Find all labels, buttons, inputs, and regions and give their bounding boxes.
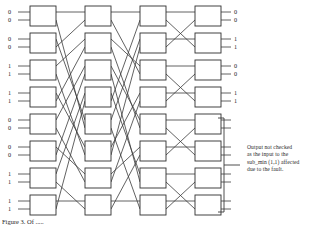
- network-diagram: [0, 0, 326, 227]
- network-link: [56, 182, 85, 209]
- network-link: [111, 74, 140, 182]
- input-label: 0: [8, 36, 11, 42]
- network-link: [111, 20, 140, 101]
- switch-box: [85, 114, 111, 134]
- switch-box: [140, 87, 166, 107]
- switch-box: [140, 6, 166, 26]
- network-link: [56, 93, 85, 174]
- switch-boxes: [30, 6, 221, 215]
- figure-caption: Figure 3. Of .....: [2, 218, 172, 227]
- input-label: 1: [8, 206, 11, 212]
- switch-box: [30, 195, 56, 215]
- input-label: 1: [8, 63, 11, 69]
- input-label: 1: [8, 71, 11, 77]
- switch-box: [140, 168, 166, 188]
- input-label: 0: [8, 117, 11, 123]
- fault-annotation: Output not checked as the input to the s…: [247, 144, 325, 174]
- input-label: 0: [8, 9, 11, 15]
- network-link: [111, 20, 140, 74]
- switch-box: [30, 60, 56, 80]
- input-label: 1: [8, 198, 11, 204]
- output-label: 0: [234, 9, 237, 15]
- output-label: 1: [234, 90, 237, 96]
- switch-box: [85, 6, 111, 26]
- input-label: 1: [8, 98, 11, 104]
- output-label: 1: [234, 36, 237, 42]
- switch-box: [195, 6, 221, 26]
- switch-box: [195, 195, 221, 215]
- switch-box: [30, 114, 56, 134]
- switch-box: [195, 168, 221, 188]
- switch-box: [30, 87, 56, 107]
- annotation-line-1: Output not checked: [247, 144, 325, 151]
- network-link: [56, 93, 85, 147]
- input-label: 0: [8, 152, 11, 158]
- input-label: 0: [8, 44, 11, 50]
- switch-box: [85, 33, 111, 53]
- switch-box: [85, 60, 111, 80]
- input-label: 1: [8, 171, 11, 177]
- switch-box: [30, 168, 56, 188]
- switch-box: [85, 141, 111, 161]
- network-link: [111, 101, 140, 182]
- output-label: 0: [234, 17, 237, 23]
- switch-box: [85, 87, 111, 107]
- input-label: 0: [8, 144, 11, 150]
- output-label: 1: [234, 44, 237, 50]
- network-link: [111, 93, 140, 174]
- switch-box: [140, 195, 166, 215]
- input-label: 0: [8, 125, 11, 131]
- output-label: 0: [234, 71, 237, 77]
- switch-box: [140, 33, 166, 53]
- switch-box: [85, 168, 111, 188]
- network-link: [111, 66, 140, 120]
- switch-box: [30, 141, 56, 161]
- annotation-line-4: due to the fault.: [247, 166, 325, 173]
- switch-box: [195, 114, 221, 134]
- switch-box: [195, 60, 221, 80]
- output-label: 1: [234, 98, 237, 104]
- annotation-line-2: as the input to the: [247, 151, 325, 158]
- network-link: [111, 47, 140, 128]
- switch-box: [85, 195, 111, 215]
- network-link: [111, 39, 140, 120]
- input-label: 1: [8, 90, 11, 96]
- switch-box: [195, 33, 221, 53]
- switch-box: [30, 6, 56, 26]
- annotation-line-3: sub_min (1,1) affected: [247, 159, 325, 166]
- switch-box: [140, 60, 166, 80]
- switch-box: [140, 141, 166, 161]
- switch-box: [195, 87, 221, 107]
- network-link: [56, 147, 85, 174]
- input-label: 0: [8, 17, 11, 23]
- output-label: 0: [234, 63, 237, 69]
- network-links: [56, 12, 195, 209]
- switch-box: [140, 114, 166, 134]
- network-link: [56, 39, 85, 120]
- switch-box: [195, 141, 221, 161]
- switch-box: [30, 33, 56, 53]
- input-label: 1: [8, 179, 11, 185]
- network-link: [56, 101, 85, 209]
